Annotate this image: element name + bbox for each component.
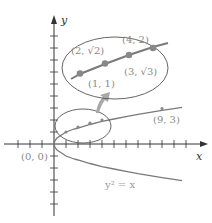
- magnify-arrow-icon: [96, 92, 110, 113]
- inset-dot-2-sqrt2: [102, 60, 109, 67]
- inset-label-2-sqrt2: (2, √2): [71, 45, 104, 56]
- inset-label-3-sqrt3: (3, √3): [124, 66, 157, 77]
- curve-dots: [64, 107, 163, 134]
- inset-dot-4-2: [150, 45, 157, 52]
- x-axis-label: x: [196, 150, 203, 163]
- dot-2-sqrt2: [76, 125, 79, 128]
- point-label-9-3: (9, 3): [153, 114, 180, 125]
- equation-label: y² = x: [104, 179, 135, 190]
- dot-9-3: [160, 107, 163, 110]
- inset-dot-1-1: [77, 70, 84, 77]
- inset-label-1-1: (1, 1): [88, 78, 115, 89]
- x-axis: [4, 140, 208, 148]
- y-axis: [50, 15, 58, 216]
- parabola-lower-branch: [54, 144, 182, 181]
- parabola-upper-branch: [54, 107, 182, 144]
- origin-label: (0, 0): [21, 151, 48, 162]
- graph-svg: y x (0, 0) (9, 3) y² = x (1, 1) (2, √2) …: [0, 0, 212, 223]
- inset-label-4-2: (4, 2): [122, 34, 149, 45]
- dot-1-1: [64, 130, 67, 133]
- dot-4-2: [100, 118, 103, 121]
- y-axis-arrow-icon: [51, 15, 57, 24]
- dot-3-sqrt3: [88, 122, 91, 125]
- inset-dot-3-sqrt3: [126, 52, 133, 59]
- y-axis-label: y: [60, 14, 68, 27]
- diagram-canvas: y x (0, 0) (9, 3) y² = x (1, 1) (2, √2) …: [0, 0, 212, 223]
- x-axis-arrow-icon: [200, 141, 208, 147]
